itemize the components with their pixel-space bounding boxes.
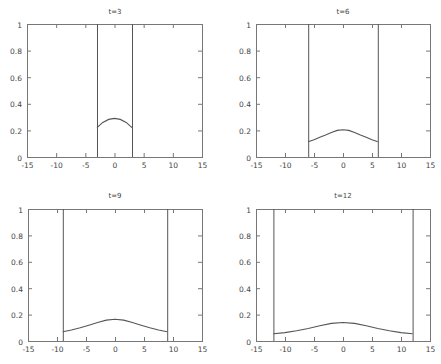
x-tick-label: -10	[279, 161, 291, 170]
y-tick-label: 0.2	[239, 127, 251, 136]
data-curve	[97, 118, 132, 127]
y-tick-label: 1	[246, 21, 251, 30]
x-tick-label: -10	[51, 161, 63, 170]
x-tick-label: -5	[311, 161, 319, 170]
y-tick-label: 0.2	[239, 311, 251, 320]
y-tick-label: 0.4	[239, 100, 251, 109]
x-tick-label: -5	[83, 345, 91, 354]
x-tick-label: -15	[22, 345, 34, 354]
plot-title: t=12	[334, 192, 352, 200]
x-tick-label: -15	[250, 161, 262, 170]
plot-frame	[257, 210, 431, 342]
x-tick-label: -10	[51, 345, 63, 354]
y-tick-label: 0.8	[239, 47, 251, 56]
figure: t=3-15-10-505101500.20.40.60.81 t=6-15-1…	[0, 0, 441, 364]
y-tick-label: 0.6	[239, 74, 251, 83]
x-tick-label: 0	[113, 345, 118, 354]
data-curve	[273, 323, 412, 334]
x-tick-label: 15	[198, 161, 208, 170]
y-tick-label: 1	[246, 206, 251, 215]
y-tick-label: 0	[246, 338, 251, 347]
data-curve	[308, 130, 378, 142]
y-tick-label: 0	[246, 154, 251, 163]
x-tick-label: 5	[370, 161, 375, 170]
x-tick-label: 10	[169, 161, 179, 170]
x-tick-label: 10	[397, 161, 407, 170]
y-tick-label: 0.2	[11, 311, 23, 320]
x-tick-label: -10	[279, 345, 291, 354]
plot-title: t=9	[108, 192, 121, 200]
x-tick-label: 5	[142, 345, 147, 354]
y-tick-label: 0	[18, 338, 23, 347]
x-tick-label: 10	[397, 345, 407, 354]
x-tick-label: 0	[341, 161, 346, 170]
y-tick-label: 0.2	[10, 127, 22, 136]
x-tick-label: -15	[21, 161, 33, 170]
data-curve	[63, 319, 167, 332]
subplot-t6: t=6-15-10-505101500.20.40.60.81	[239, 8, 435, 170]
x-tick-label: -5	[82, 161, 90, 170]
subplot-t3: t=3-15-10-505101500.20.40.60.81	[10, 8, 207, 170]
plot-title: t=3	[108, 8, 121, 16]
y-tick-label: 0.6	[239, 258, 251, 267]
plot-frame	[29, 210, 203, 342]
y-tick-label: 0.4	[10, 100, 22, 109]
y-tick-label: 0.8	[10, 47, 22, 56]
y-tick-label: 0	[17, 154, 22, 163]
y-tick-label: 0.4	[11, 285, 23, 294]
plot-title: t=6	[336, 8, 350, 16]
x-tick-label: 5	[370, 345, 375, 354]
y-tick-label: 1	[17, 21, 22, 30]
y-tick-label: 0.8	[239, 232, 251, 241]
y-tick-label: 1	[18, 206, 23, 215]
x-tick-label: 0	[341, 345, 346, 354]
x-tick-label: 15	[426, 161, 436, 170]
x-tick-label: 0	[113, 161, 118, 170]
plot-frame	[28, 25, 203, 158]
y-tick-label: 0.6	[11, 258, 23, 267]
x-tick-label: -15	[250, 345, 262, 354]
x-tick-label: 15	[198, 345, 208, 354]
plot-frame	[257, 25, 431, 158]
y-tick-label: 0.8	[11, 232, 23, 241]
x-tick-label: 15	[426, 345, 436, 354]
x-tick-label: 5	[142, 161, 147, 170]
y-tick-label: 0.4	[239, 285, 251, 294]
y-tick-label: 0.6	[10, 74, 22, 83]
x-tick-label: -5	[311, 345, 319, 354]
x-tick-label: 10	[169, 345, 179, 354]
subplot-t9: t=9-15-10-505101500.20.40.60.81	[11, 192, 207, 354]
subplot-t12: t=12-15-10-505101500.20.40.60.81	[239, 192, 435, 354]
